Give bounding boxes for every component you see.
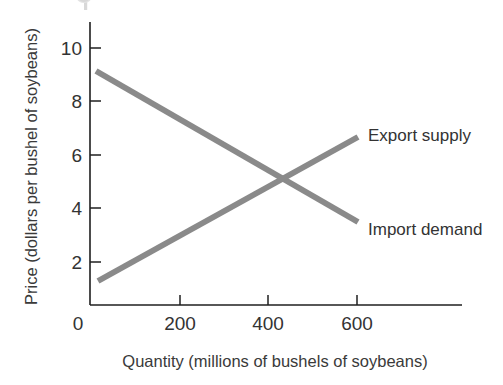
y-axis-title: Price (dollars per bushel of soybeans) (22, 28, 40, 305)
x-axis-title: Quantity (millions of bushels of soybean… (122, 352, 427, 370)
x-tick-label-600: 600 (341, 313, 373, 334)
y-tick-label-8: 8 (71, 91, 82, 112)
import-demand-label: Import demand (368, 220, 482, 239)
x-tick-label-200: 200 (164, 313, 196, 334)
y-tick-label-4: 4 (71, 198, 82, 219)
chart-figure: 10 8 6 4 2 Price (dollars per bushel of … (0, 0, 503, 385)
y-tick-label-2: 2 (71, 252, 82, 273)
supply-demand-chart: 10 8 6 4 2 Price (dollars per bushel of … (0, 0, 503, 385)
x-tick-label-400: 400 (252, 313, 284, 334)
export-supply-label: Export supply (368, 126, 471, 145)
y-tick-label-6: 6 (71, 145, 82, 166)
x-tick-label-0: 0 (73, 313, 84, 334)
y-tick-label-10: 10 (61, 38, 82, 59)
